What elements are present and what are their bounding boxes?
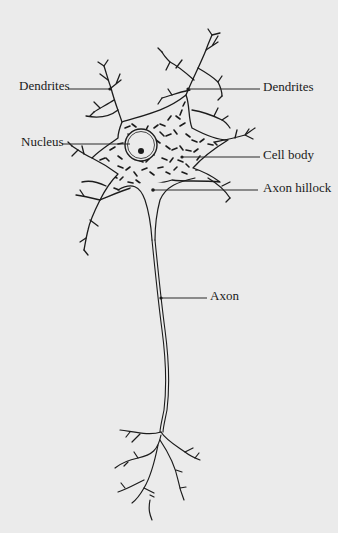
axon-terminals [115, 430, 200, 520]
label-axon-hillock: Axon hillock [263, 181, 331, 194]
dendrites-upper-right [158, 29, 230, 128]
label-nucleus: Nucleus [21, 135, 64, 148]
dendrites-upper-left [86, 60, 122, 122]
nucleus-shape [125, 129, 157, 161]
label-dendrites-left: Dendrites [19, 79, 70, 92]
label-dendrites-right: Dendrites [263, 80, 314, 93]
label-cell-body: Cell body [263, 148, 314, 161]
axon-shape [152, 240, 169, 432]
dendrites-right [208, 128, 255, 202]
label-axon: Axon [210, 289, 239, 302]
